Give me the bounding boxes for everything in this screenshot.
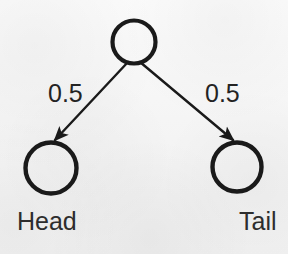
node-root bbox=[113, 21, 156, 64]
node-tail bbox=[213, 143, 262, 192]
figure-canvas: 0.5 0.5 Head Tail bbox=[0, 0, 288, 254]
node-head bbox=[26, 143, 77, 194]
edge-weight-right: 0.5 bbox=[205, 81, 240, 106]
node-label-tail: Tail bbox=[239, 209, 277, 234]
node-label-head: Head bbox=[17, 209, 77, 234]
edge-weight-left: 0.5 bbox=[48, 81, 83, 106]
